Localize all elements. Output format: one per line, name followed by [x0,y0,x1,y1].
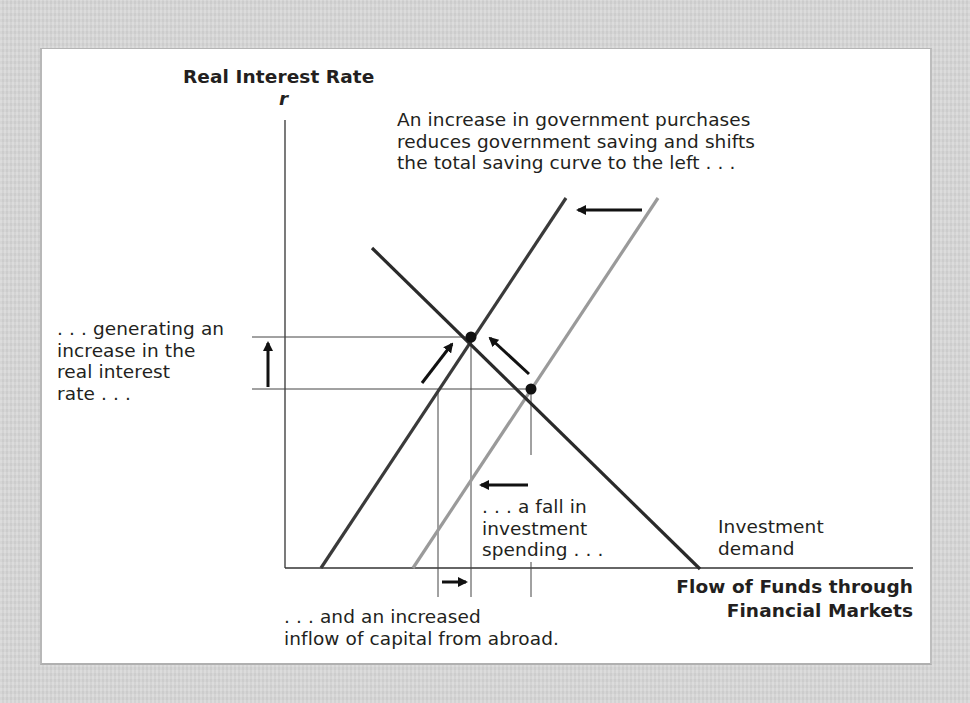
rate-note-line: increase in the [57,340,224,362]
rate-note: . . . generating an increase in the real… [57,318,224,404]
investment-note-line: . . . a fall in [482,496,604,518]
x-axis-title-line1: Flow of Funds through [676,576,913,598]
capital-note: . . . and an increased inflow of capital… [284,606,559,649]
investment-demand-label-line: Investment [718,516,824,538]
investment-demand-label-line: demand [718,538,824,560]
old-equilibrium-point [526,384,537,395]
new-equilibrium-point [466,332,477,343]
shift-note-line: the total saving curve to the left . . . [397,152,755,174]
capital-note-line: . . . and an increased [284,606,559,628]
capital-note-line: inflow of capital from abroad. [284,628,559,650]
investment-demand-label: Investment demand [718,516,824,559]
shift-note: An increase in government purchases redu… [397,109,755,174]
x-axis-title-line2: Financial Markets [727,600,913,622]
investment-note-line: investment [482,518,604,540]
rate-note-line: . . . generating an [57,318,224,340]
rate-note-line: real interest [57,361,224,383]
y-axis-symbol: r [279,88,288,110]
investment-note-line: spending . . . [482,539,604,561]
y-axis-title: Real Interest Rate [183,66,374,88]
investment-note: . . . a fall in investment spending . . … [482,496,604,561]
shift-note-line: reduces government saving and shifts [397,131,755,153]
shift-note-line: An increase in government purchases [397,109,755,131]
rate-note-line: rate . . . [57,383,224,405]
